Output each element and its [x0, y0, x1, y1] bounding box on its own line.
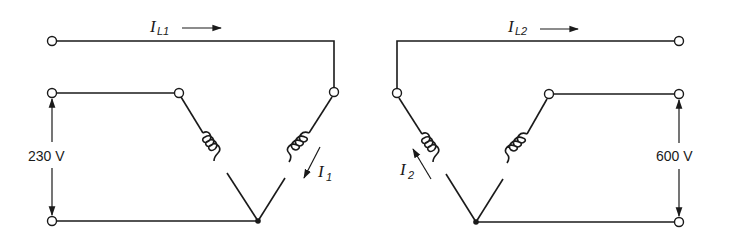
secondary-winding-terminal-b	[545, 90, 554, 99]
primary-line-current-label: I L1	[149, 17, 169, 37]
secondary-line-current-label: I L2	[507, 17, 527, 37]
svg-text:I: I	[399, 160, 407, 179]
secondary-voltage-label: 600 V	[656, 148, 693, 164]
secondary-terminal-1	[675, 37, 684, 46]
secondary-winding-b	[476, 99, 547, 222]
primary-circuit: 230 V I L1 I 1	[28, 17, 339, 226]
svg-text:I: I	[317, 162, 325, 181]
circuit-diagram: 230 V I L1 I 1	[0, 0, 729, 242]
secondary-line-1-wire	[397, 41, 675, 88]
primary-winding-terminal-b	[330, 88, 339, 97]
primary-terminal-1	[48, 37, 57, 46]
secondary-winding-terminal-a	[393, 89, 402, 98]
svg-text:I: I	[149, 17, 157, 36]
primary-winding-terminal-a	[175, 89, 184, 98]
primary-voltage-label: 230 V	[28, 148, 65, 164]
primary-winding-b	[258, 97, 332, 221]
primary-line-1-wire	[56, 41, 334, 87]
svg-text:1: 1	[326, 171, 332, 183]
primary-terminal-2	[48, 89, 57, 98]
primary-winding-a	[181, 97, 258, 221]
primary-neutral-junction	[255, 218, 261, 224]
secondary-phase-current-label: I 2	[399, 160, 414, 181]
svg-text:L1: L1	[157, 25, 169, 37]
secondary-neutral-junction	[473, 219, 479, 225]
secondary-winding-a	[399, 98, 476, 222]
secondary-terminal-2	[675, 90, 684, 99]
secondary-terminal-3	[675, 218, 684, 227]
secondary-circuit: 600 V I L2 I 2	[393, 17, 694, 227]
primary-terminal-3	[48, 217, 57, 226]
svg-text:L2: L2	[515, 25, 527, 37]
svg-text:I: I	[507, 17, 515, 36]
svg-text:2: 2	[407, 169, 414, 181]
secondary-phase-current-arrow	[413, 149, 431, 179]
primary-phase-current-label: I 1	[317, 162, 332, 183]
